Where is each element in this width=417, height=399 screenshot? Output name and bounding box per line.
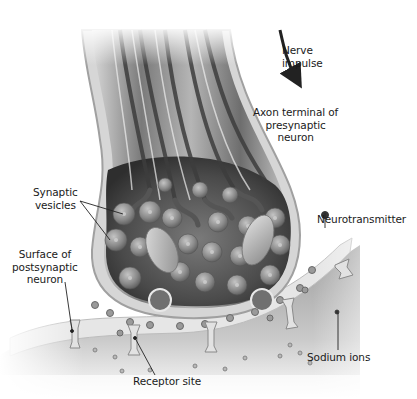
label-axon-terminal: Axon terminal of presynaptic neuron <box>253 106 338 144</box>
label-sodium-ions: Sodium ions <box>307 351 370 364</box>
label-receptor-site: Receptor site <box>133 375 201 388</box>
label-nerve-impulse: Nerve impulse <box>282 44 323 69</box>
label-surface-postsynaptic: Surface of postsynaptic neuron <box>12 248 78 286</box>
cropped-top-text <box>0 0 417 2</box>
synapse-diagram: Nerve impulse Axon terminal of presynapt… <box>0 0 417 399</box>
label-neurotransmitter: Neurotransmitter <box>317 213 406 226</box>
label-synaptic-vesicles: Synaptic vesicles <box>33 186 78 211</box>
